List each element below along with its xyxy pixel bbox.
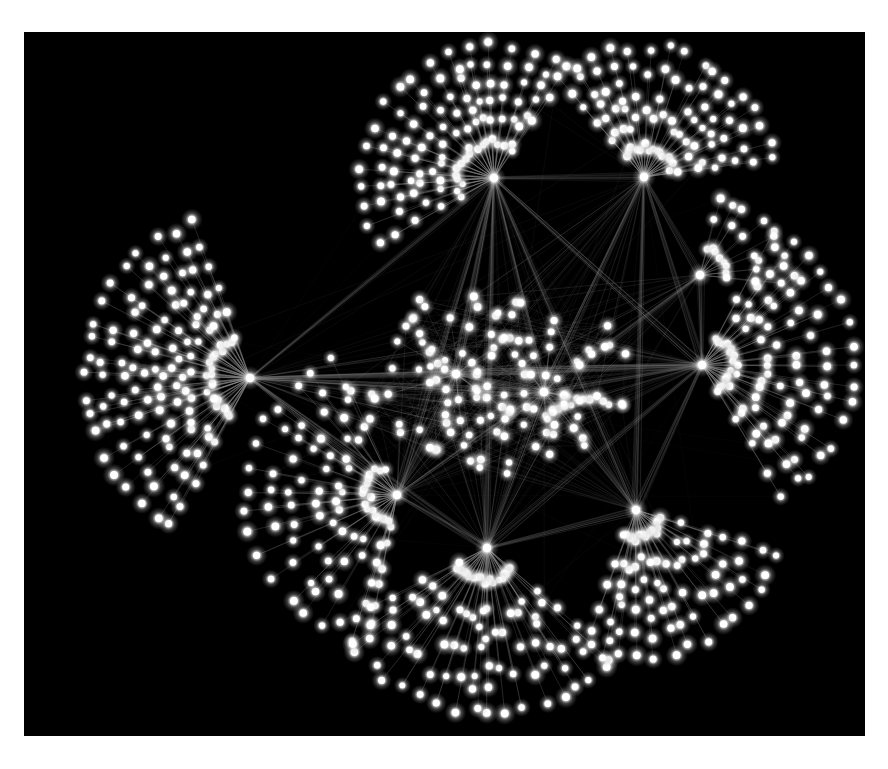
page-root bbox=[0, 0, 888, 769]
network-graph-canvas[interactable] bbox=[24, 32, 865, 736]
graph-visualization-panel[interactable] bbox=[24, 32, 865, 736]
